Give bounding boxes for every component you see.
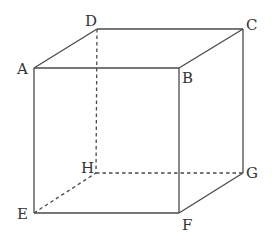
vertex-label-e: E	[17, 205, 28, 223]
vertex-label-f: F	[182, 216, 192, 234]
vertex-label-h: H	[81, 159, 94, 177]
edge-dh-hidden	[96, 29, 97, 173]
edge-fg	[179, 173, 243, 213]
vertex-label-g: G	[246, 164, 258, 182]
cube-diagram: A B C D E F G H	[0, 0, 272, 238]
vertex-label-a: A	[16, 60, 28, 78]
vertex-label-b: B	[182, 69, 193, 87]
edge-da	[34, 29, 97, 68]
vertex-label-d: D	[85, 12, 97, 30]
vertex-label-c: C	[246, 16, 257, 34]
edge-eh-hidden	[34, 173, 96, 213]
edge-bc	[179, 29, 243, 68]
